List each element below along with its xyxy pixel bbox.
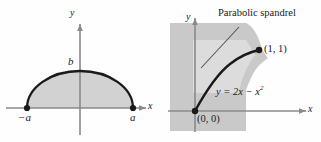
parabolic-spandrel-callout-label: Parabolic spandrel: [218, 8, 296, 19]
parabola-equation-exponent: 2: [260, 84, 263, 91]
right-figure-parabolic-spandrel: y x Parabolic spandrel (1, 1) (0, 0) y =…: [160, 0, 321, 142]
point-label-one-one: (1, 1): [264, 44, 287, 55]
left-height-label-b: b: [68, 56, 74, 67]
right-x-axis-label: x: [308, 104, 312, 114]
figure-root: y x b −a a y x Parabolic spandre: [0, 0, 321, 142]
parabola-equation-label: y = 2x − x2: [216, 85, 263, 97]
left-figure-semiellipse: y x b −a a: [0, 0, 160, 142]
right-y-axis-label: y: [186, 12, 190, 22]
parabola-equation-text: y = 2x − x: [216, 86, 260, 97]
point-dot-one-one: [256, 47, 262, 53]
right-figure-canvas: [160, 0, 321, 142]
left-x-axis-label: x: [148, 101, 152, 111]
left-endpoint-label-negative-a: −a: [18, 112, 31, 123]
right-x-axis-arrowhead: [299, 108, 306, 114]
left-endpoint-label-a: a: [130, 112, 136, 123]
right-y-axis-arrowhead: [192, 18, 198, 25]
left-x-axis-arrowhead: [139, 105, 146, 111]
left-y-axis-arrowhead: [77, 24, 83, 31]
left-y-axis-label: y: [70, 8, 74, 18]
point-label-origin: (0, 0): [197, 114, 220, 125]
